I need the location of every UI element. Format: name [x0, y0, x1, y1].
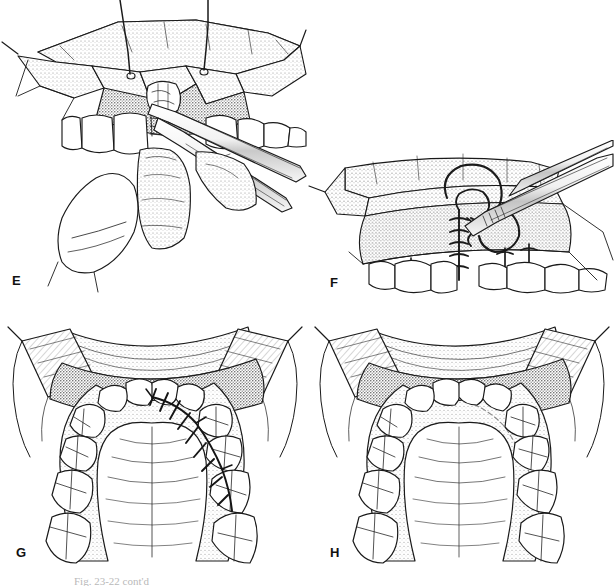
panel-label-e: E: [12, 274, 21, 287]
panel-g-drawing: [0, 305, 307, 586]
panel-g-illustration: [0, 305, 307, 586]
retractor-thread-left: [2, 42, 18, 54]
panel-label-f: F: [330, 276, 338, 289]
right-commissure-contour: [280, 341, 297, 457]
right-cheek-tissue: [196, 152, 256, 211]
left-commissure-contour: [13, 341, 30, 457]
panel-e-illustration: [0, 0, 307, 305]
tooth-premolar2-left: [52, 470, 93, 513]
clipped-caption: Fig. 23-22 cont'd: [74, 575, 244, 586]
panel-h-illustration: [307, 305, 614, 586]
panel-f-drawing: [307, 140, 614, 305]
lower-lip: [48, 174, 138, 293]
figure-plate: E: [0, 0, 614, 586]
panel-label-h: H: [330, 546, 340, 559]
panel-e-drawing: [0, 0, 307, 305]
retractor-thread-right: [300, 30, 306, 46]
panel-h-drawing: [307, 305, 614, 586]
tooth-molar-left: [46, 513, 91, 563]
maxillary-incisors: [62, 113, 148, 154]
maxillary-teeth-f: [369, 260, 607, 293]
tongue: [137, 148, 190, 249]
tooth-canine-left: [70, 404, 105, 437]
tooth-incisor-lateral-left: [98, 385, 127, 411]
panel-f-illustration: [307, 140, 614, 305]
retractor-thread-left-f: [309, 186, 325, 192]
panel-label-g: G: [16, 546, 26, 559]
